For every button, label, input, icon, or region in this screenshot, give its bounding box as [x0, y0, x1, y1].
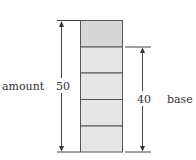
box-top — [81, 21, 123, 48]
amount-value: 50 — [55, 81, 71, 92]
box-5 — [81, 126, 123, 152]
box-3 — [81, 73, 123, 100]
base-arrow-down-icon — [140, 146, 145, 152]
box-4 — [81, 100, 123, 127]
base-arrow-up-icon — [140, 48, 145, 54]
amount-label: amount — [2, 81, 44, 92]
base-label: base — [167, 94, 193, 105]
amount-arrow-down-icon — [59, 146, 64, 152]
amount-arrow-up-icon — [59, 21, 64, 27]
box-2 — [81, 47, 123, 73]
base-value: 40 — [136, 94, 152, 105]
